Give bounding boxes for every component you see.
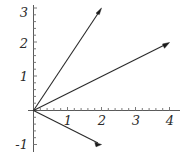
- plot-canvas: [0, 0, 193, 161]
- x-tick-label-4: 4: [166, 114, 174, 127]
- y-tick-label-2: 2: [20, 37, 28, 50]
- y-tick-label-3: 3: [20, 6, 28, 19]
- vector-arrow-2: [34, 43, 170, 111]
- vector-plot-figure: 1 2 3 4 3 2 1 -1: [0, 0, 193, 161]
- y-tick-label-1: 1: [20, 70, 28, 83]
- y-tick-label-minus-1: -1: [15, 138, 28, 151]
- y-axis-ticks: [34, 8, 38, 145]
- x-tick-label-1: 1: [64, 114, 72, 127]
- x-tick-label-3: 3: [132, 114, 140, 127]
- x-axis-ticks: [40, 107, 169, 111]
- vector-arrow-1: [34, 8, 102, 111]
- x-tick-label-2: 2: [98, 114, 106, 127]
